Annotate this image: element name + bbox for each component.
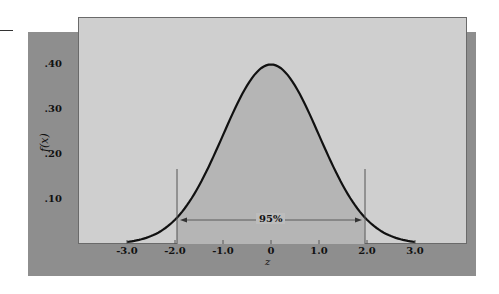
x-axis-label: z xyxy=(265,256,270,267)
y-tick-label: .10 xyxy=(22,193,62,204)
x-tick-label: -3.0 xyxy=(107,245,147,256)
y-axis-label: f(x) xyxy=(38,133,51,152)
x-tick-label: -1.0 xyxy=(203,245,243,256)
y-tick-label: .40 xyxy=(22,58,62,69)
x-tick-label: 1.0 xyxy=(299,245,339,256)
x-tick-label: -2.0 xyxy=(155,245,195,256)
x-tick-marks xyxy=(127,240,415,244)
x-tick-label: 2.0 xyxy=(347,245,387,256)
x-tick-label: 3.0 xyxy=(395,245,435,256)
annotation-95-percent: 95% xyxy=(256,213,285,224)
y-tick-label: .30 xyxy=(22,103,62,114)
x-tick-label: 0 xyxy=(251,245,291,256)
